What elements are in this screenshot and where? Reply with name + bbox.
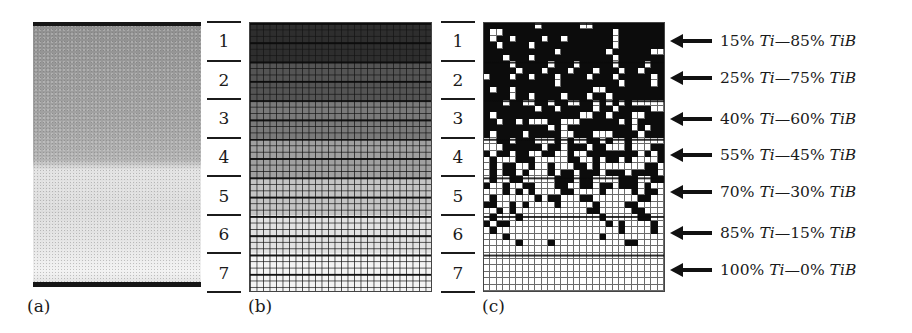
layer-number-1: 1 <box>441 32 475 50</box>
ti-symbol: Ti <box>759 224 774 242</box>
composition-annotation-layer-4: 55% Ti—45% TiB <box>670 145 856 165</box>
specimen-bottom-edge <box>33 282 201 287</box>
caption-a: (a) <box>27 296 50 316</box>
ti-symbol: Ti <box>759 110 774 128</box>
arrow-shaft <box>680 117 712 121</box>
ti-percent: 70% <box>720 183 754 201</box>
ti-symbol: Ti <box>759 32 774 50</box>
layer-boundary-tick <box>207 291 241 293</box>
arrow-shaft <box>680 76 712 80</box>
layer-number-4: 4 <box>441 148 475 166</box>
layer-number-1: 1 <box>207 32 241 50</box>
layer-boundary-tick <box>207 175 241 177</box>
layer-boundary-tick <box>441 137 475 139</box>
layer-number-2: 2 <box>207 71 241 89</box>
arrow-shaft <box>680 268 712 272</box>
layer-boundary-tick <box>207 137 241 139</box>
layer-boundary-tick <box>207 98 241 100</box>
composition-label: 40% Ti—60% TiB <box>720 110 856 128</box>
tib-percent: 45% <box>790 146 824 164</box>
tib-percent: 0% <box>800 261 825 279</box>
ti-percent: 85% <box>720 224 754 242</box>
layer-number-4: 4 <box>207 148 241 166</box>
ti-symbol: Ti <box>759 69 774 87</box>
composition-label: 25% Ti—75% TiB <box>720 69 856 87</box>
arrow-left-icon <box>670 34 712 48</box>
layer-number-5: 5 <box>441 187 475 205</box>
tib-symbol: TiB <box>830 261 857 279</box>
ti-percent: 100% <box>720 261 764 279</box>
composition-annotation-layer-7: 100% Ti—0% TiB <box>670 260 856 280</box>
arrow-shaft <box>680 231 712 235</box>
separator: — <box>785 261 801 279</box>
tib-symbol: TiB <box>830 224 857 242</box>
ti-percent: 55% <box>720 146 754 164</box>
composition-label: 15% Ti—85% TiB <box>720 32 856 50</box>
tib-symbol: TiB <box>830 32 857 50</box>
layer-number-7: 7 <box>207 264 241 282</box>
layer-number-6: 6 <box>441 225 475 243</box>
layer-boundary-tick <box>207 252 241 254</box>
layer-boundary-tick <box>441 291 475 293</box>
arrow-left-icon <box>670 71 712 85</box>
layer-boundary-tick <box>441 214 475 216</box>
layer-number-3: 3 <box>441 109 475 127</box>
composition-annotation-layer-3: 40% Ti—60% TiB <box>670 109 856 129</box>
ti-percent: 25% <box>720 69 754 87</box>
separator: — <box>775 32 791 50</box>
separator: — <box>775 146 791 164</box>
caption-c: (c) <box>482 296 505 316</box>
tib-symbol: TiB <box>830 146 857 164</box>
layer-number-6: 6 <box>207 225 241 243</box>
layer-boundary-tick <box>441 252 475 254</box>
arrow-left-icon <box>670 112 712 126</box>
separator: — <box>775 110 791 128</box>
composition-annotation-layer-6: 85% Ti—15% TiB <box>670 223 856 243</box>
separator: — <box>775 224 791 242</box>
arrow-left-icon <box>670 263 712 277</box>
layer-boundary-tick <box>207 21 241 23</box>
graded-mesh-panel-b <box>249 22 432 292</box>
arrow-left-icon <box>670 185 712 199</box>
arrow-left-icon <box>670 226 712 240</box>
mesh-cell-ti <box>658 285 664 291</box>
arrow-left-icon <box>670 148 712 162</box>
ti-percent: 40% <box>720 110 754 128</box>
composition-label: 55% Ti—45% TiB <box>720 146 856 164</box>
composition-annotation-layer-2: 25% Ti—75% TiB <box>670 68 856 88</box>
layer-number-5: 5 <box>207 187 241 205</box>
specimen-top-edge <box>33 22 201 26</box>
composition-annotation-layer-5: 70% Ti—30% TiB <box>670 182 856 202</box>
layer-number-7: 7 <box>441 264 475 282</box>
composition-label: 100% Ti—0% TiB <box>720 261 856 279</box>
separator: — <box>775 69 791 87</box>
micrograph-panel-a <box>33 22 201 287</box>
composition-label: 85% Ti—15% TiB <box>720 224 856 242</box>
separator: — <box>775 183 791 201</box>
composition-label: 70% Ti—30% TiB <box>720 183 856 201</box>
layer-number-2: 2 <box>441 71 475 89</box>
layer-number-3: 3 <box>207 109 241 127</box>
tib-percent: 85% <box>790 32 824 50</box>
tib-percent: 15% <box>790 224 824 242</box>
mesh-layer-lines <box>250 23 431 291</box>
ti-percent: 15% <box>720 32 754 50</box>
layer-labels-right: 1234567 <box>441 22 475 292</box>
layer-labels-left: 1234567 <box>207 22 241 292</box>
layer-boundary-tick <box>441 21 475 23</box>
arrow-shaft <box>680 190 712 194</box>
composition-annotation-layer-1: 15% Ti—85% TiB <box>670 31 856 51</box>
ti-symbol: Ti <box>759 146 774 164</box>
ti-symbol: Ti <box>769 261 784 279</box>
tib-percent: 60% <box>790 110 824 128</box>
tib-symbol: TiB <box>830 110 857 128</box>
caption-b: (b) <box>248 296 272 316</box>
binary-mesh-panel-c <box>483 22 665 292</box>
ti-symbol: Ti <box>759 183 774 201</box>
layer-boundary-tick <box>207 60 241 62</box>
tib-symbol: TiB <box>830 183 857 201</box>
tib-percent: 30% <box>790 183 824 201</box>
arrow-shaft <box>680 39 712 43</box>
tib-percent: 75% <box>790 69 824 87</box>
layer-boundary-tick <box>441 175 475 177</box>
